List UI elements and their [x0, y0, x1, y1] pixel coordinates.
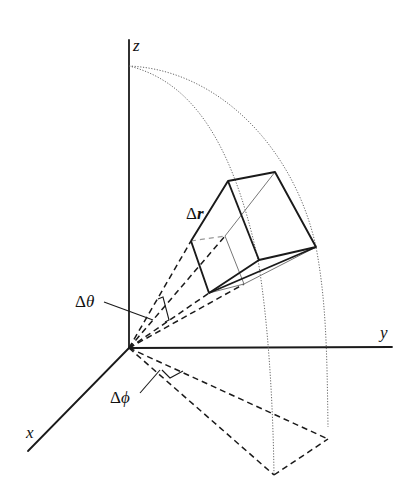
y-axis-label: y	[378, 323, 388, 342]
hidden-edge-back-top	[225, 172, 275, 236]
projection-lines	[129, 348, 328, 475]
edge-bottom-diagonal	[209, 247, 316, 293]
theta-rays	[129, 236, 244, 348]
delta-theta-label: Δθ	[75, 292, 94, 311]
z-axis-label: z	[132, 36, 140, 55]
delta-phi-leader	[140, 370, 160, 393]
hidden-edge-inner-top	[191, 236, 225, 241]
sphere-arcs	[129, 66, 328, 475]
y-axis	[129, 347, 392, 348]
base-edge	[274, 439, 328, 475]
ray-to-back-bottom	[129, 284, 244, 348]
ray-to-top-left	[129, 241, 191, 348]
theta-angle-bracket	[158, 297, 169, 322]
phi-ray-lower	[129, 348, 274, 475]
axes	[28, 40, 392, 451]
x-axis-label: x	[25, 423, 34, 442]
outer-meridian-arc	[129, 66, 328, 427]
phi-ray-upper	[129, 348, 328, 439]
delta-r-label: Δr	[186, 204, 204, 223]
spherical-volume-element-diagram: z y x Δr Δθ Δϕ	[0, 0, 419, 496]
angle-markers	[104, 297, 183, 393]
labels: z y x Δr Δθ Δϕ	[25, 36, 388, 442]
edge-top-to-middle	[228, 181, 259, 260]
delta-phi-label: Δϕ	[110, 388, 130, 407]
volume-element	[191, 172, 316, 293]
